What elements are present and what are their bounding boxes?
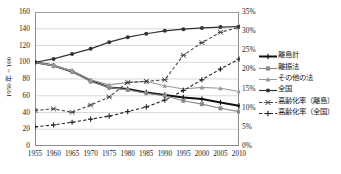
chart-figure: 1950 年 = 100 020406080100120140160 0%5%1… [0, 0, 341, 174]
y-axis-left-tick-label: 20 [8, 125, 30, 133]
y-axis-left-tick-label: 100 [8, 58, 30, 66]
y-axis-left-tick-label: 40 [8, 109, 30, 117]
chart-legend: 離島計離振法その他の法全国高齢化率（離島）高齢化率（全国） [258, 48, 341, 116]
y-axis-right-tick-label: 5% [242, 123, 268, 131]
series-1 [35, 60, 240, 113]
legend-item[interactable]: 高齢化率（全国） [258, 105, 341, 116]
y-axis-left-tick-label: 80 [8, 75, 30, 83]
legend-item[interactable]: 高齢化率（離島） [258, 94, 341, 105]
legend-item-label: 高齢化率（離島） [278, 94, 334, 105]
series-0 [35, 60, 240, 109]
y-axis-left-tick-label: 160 [8, 8, 30, 16]
y-axis-right-tick-label: 0% [242, 142, 268, 150]
legend-item-label: その他の法 [278, 71, 313, 82]
legend-item[interactable]: その他の法 [258, 71, 341, 82]
legend-item-label: 離振法 [278, 60, 299, 71]
legend-key-icon [258, 82, 278, 93]
y-axis-left-tick-label: 120 [8, 42, 30, 50]
series-2 [35, 60, 240, 94]
plot-area [35, 12, 239, 146]
y-axis-left-tick-label: 60 [8, 92, 30, 100]
series-3 [35, 25, 240, 65]
series-5 [35, 56, 240, 129]
y-axis-right-tick-label: 35% [242, 8, 268, 16]
legend-item[interactable]: 全国 [258, 82, 341, 93]
legend-item-label: 離島計 [278, 48, 299, 59]
legend-key-icon [258, 105, 278, 116]
legend-key-icon [258, 60, 278, 71]
x-axis-tick-label: 2010 [227, 150, 251, 158]
y-axis-left-tick-label: 0 [8, 142, 30, 150]
legend-item-label: 高齢化率（全国） [278, 105, 334, 116]
legend-key-icon [258, 71, 278, 82]
y-axis-left-tick-label: 140 [8, 25, 30, 33]
y-axis-right-tick-label: 30% [242, 27, 268, 35]
legend-item[interactable]: 離振法 [258, 59, 341, 70]
legend-item-label: 全国 [278, 82, 292, 93]
legend-item[interactable]: 離島計 [258, 48, 341, 59]
legend-key-icon [258, 94, 278, 105]
legend-key-icon [258, 48, 278, 59]
